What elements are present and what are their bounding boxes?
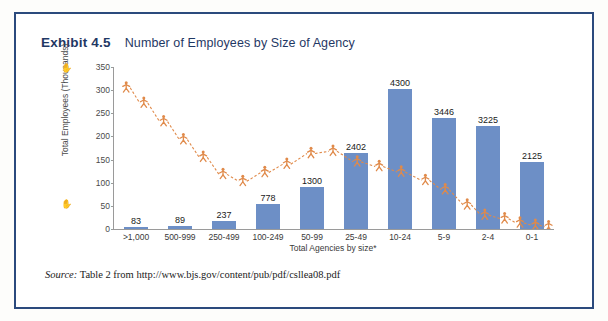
x-tick-label: 250-499 [208,232,239,242]
bar[interactable]: 237 [212,221,236,229]
pictogram-decoration-icon-bottom: ✋ [61,199,72,209]
bar[interactable]: 89 [168,226,192,229]
y-tick-label: 100 [96,178,110,188]
bar-value-label: 3446 [434,107,454,117]
exhibit-header: Exhibit 4.5 Number of Employees by Size … [41,35,355,50]
bar-slot: 83>1,000 [114,67,158,229]
y-tick-label: 300 [96,85,110,95]
pictogram-decoration-icon-top: ✋ [61,63,72,73]
y-tick-label: 50 [101,201,110,211]
y-tick-mark [111,67,114,68]
bar[interactable]: 3446 [432,118,456,229]
bar-value-label: 237 [216,210,231,220]
x-tick-label: 10-24 [389,232,411,242]
source-note: Source: Table 2 from http://www.bjs.gov/… [45,269,340,280]
x-tick-label: 100-249 [252,232,283,242]
bar-slot: 430010-24 [378,67,422,229]
plot-area: 83>1,00089500-999237250-499778100-249130… [113,67,554,230]
bar[interactable]: 2125 [520,162,544,229]
bar-slot: 237250-499 [202,67,246,229]
exhibit-number: Exhibit 4.5 [41,35,111,50]
bar-slot: 21250-1 [510,67,554,229]
bar[interactable]: 83 [124,227,148,229]
y-tick-mark [111,90,114,91]
source-prefix: Source: [45,269,77,280]
bar-value-label: 2402 [346,142,366,152]
chart-container: Total Employees (Thousands) ✋ ✋ 83>1,000… [41,61,566,261]
bar-value-label: 83 [131,216,141,226]
bar[interactable]: 778 [256,204,280,229]
bar[interactable]: 1300 [300,187,324,229]
x-tick-label: 500-999 [164,232,195,242]
y-tick-mark [111,136,114,137]
bar-value-label: 778 [260,193,275,203]
y-tick-mark [111,229,114,230]
y-tick-mark [111,160,114,161]
x-tick-label: 25-49 [345,232,367,242]
x-tick-label: 50-99 [301,232,323,242]
x-tick-label: 5-9 [438,232,450,242]
page-title: Number of Employees by Size of Agency [125,36,355,50]
bar-group: 83>1,00089500-999237250-499778100-249130… [114,67,554,229]
bar-value-label: 1300 [302,176,322,186]
bar[interactable]: 4300 [388,89,412,229]
y-tick-mark [111,183,114,184]
exhibit-page: Exhibit 4.5 Number of Employees by Size … [0,0,608,321]
source-text: Table 2 from http://www.bjs.gov/content/… [77,269,340,280]
y-tick-mark [111,206,114,207]
bar-slot: 778100-249 [246,67,290,229]
bar[interactable]: 3225 [476,126,500,229]
bar-value-label: 2125 [522,151,542,161]
bar[interactable]: 2402 [344,153,368,229]
bar-value-label: 3225 [478,115,498,125]
bar-value-label: 89 [175,215,185,225]
y-tick-label: 200 [96,131,110,141]
y-tick-label: 150 [96,155,110,165]
bar-slot: 240225-49 [334,67,378,229]
bar-slot: 130050-99 [290,67,334,229]
bar-slot: 89500-999 [158,67,202,229]
exhibit-content-area: Exhibit 4.5 Number of Employees by Size … [19,17,589,304]
y-tick-label: 250 [96,108,110,118]
y-tick-label: 350 [96,62,110,72]
bar-slot: 32252-4 [466,67,510,229]
x-tick-label: 0-1 [526,232,538,242]
exhibit-frame-outer: Exhibit 4.5 Number of Employees by Size … [14,12,594,309]
y-tick-label: 0 [105,224,110,234]
bar-slot: 34465-9 [422,67,466,229]
bar-value-label: 4300 [390,78,410,88]
y-tick-mark [111,113,114,114]
x-axis-label: Total Agencies by size* [113,243,553,253]
x-tick-label: 2-4 [482,232,494,242]
x-tick-label: >1,000 [123,232,149,242]
y-axis-label: Total Employees (Thousands) [60,30,70,170]
